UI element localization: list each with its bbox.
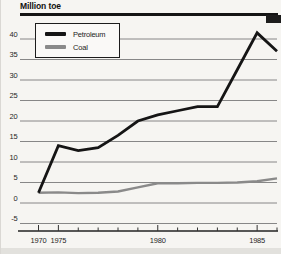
legend-label-petroleum: Petroleum	[73, 30, 105, 39]
y-tick-label-0: 0	[14, 194, 18, 203]
y-tick-label-40: 40	[10, 30, 18, 39]
y-tick-label-25: 25	[10, 91, 18, 100]
chart-page: Million toe 4035302520151050-51970197519…	[0, 0, 281, 254]
y-tick-label-5: 5	[14, 173, 18, 182]
chart-legend: Petroleum Coal	[35, 23, 120, 58]
y-tick-label-10: 10	[10, 153, 18, 162]
y-tick-label--5: -5	[11, 214, 17, 223]
y-tick-label-35: 35	[10, 50, 18, 59]
x-tick-label-1985: 1985	[249, 236, 265, 245]
x-tick-label-1975: 1975	[50, 236, 66, 245]
y-tick-label-30: 30	[10, 71, 18, 80]
petroleum-swatch	[45, 32, 66, 36]
y-tick-label-20: 20	[10, 112, 18, 121]
x-tick-label-1970: 1970	[31, 236, 47, 245]
legend-item-petroleum: Petroleum	[45, 30, 119, 39]
coal-line	[39, 178, 278, 193]
legend-label-coal: Coal	[73, 43, 88, 52]
y-tick-label-15: 15	[10, 132, 18, 141]
coal-swatch	[45, 45, 66, 49]
scan-edge	[0, 0, 1, 254]
legend-item-coal: Coal	[45, 43, 119, 52]
scan-shadow	[0, 248, 281, 254]
x-tick-label-1980: 1980	[150, 236, 166, 245]
